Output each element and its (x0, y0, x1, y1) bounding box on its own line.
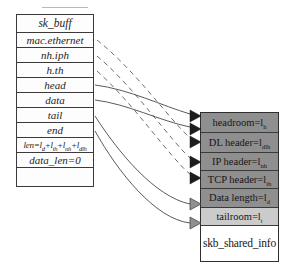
packet-buffer-box: headroom=lh DL header=ldlh IP header=lnh… (200, 112, 279, 262)
arrow-data-to-packet-start (95, 100, 190, 127)
field-data: data (17, 93, 93, 108)
row-dl-header: DL header=ldlh (201, 133, 278, 153)
row-tailroom: tailroom=lt (201, 208, 278, 226)
row-tcp-sub: th (266, 180, 271, 187)
field-head: head (17, 78, 93, 93)
row-headroom-sub: h (263, 123, 266, 130)
row-ip-label: IP header=l (212, 156, 260, 167)
row-data-sub: d (267, 198, 270, 205)
row-data-label: Data length=l (209, 192, 267, 203)
row-dl-sub: dlh (262, 143, 270, 150)
row-headroom: headroom=lh (201, 113, 278, 133)
arrow-hth-to-tcp-header (97, 71, 191, 175)
len-sub-dlh: dlh (79, 145, 86, 152)
field-nh-iph: nh.iph (17, 48, 93, 63)
row-tailroom-label: tailroom=l (216, 211, 260, 222)
field-end: end (17, 123, 93, 138)
top-rule-line (42, 7, 88, 8)
field-data-len: data_len=0 (17, 153, 93, 168)
field-tail: tail (17, 108, 93, 123)
row-ip-header: IP header=lnh (201, 153, 278, 171)
skbuff-diagram: sk_buff mac.ethernet nh.iph h.th head da… (0, 0, 287, 279)
row-tailroom-sub: t (261, 217, 263, 224)
row-dl-label: DL header=l (209, 137, 262, 148)
field-h-th: h.th (17, 63, 93, 78)
struct-table: sk_buff mac.ethernet nh.iph h.th head da… (16, 14, 94, 187)
row-headroom-label: headroom=l (212, 117, 263, 128)
arrow-tail-to-data-end (95, 116, 190, 204)
field-mac-ethernet: mac.ethernet (17, 33, 93, 48)
arrow-mac-to-dl-header (97, 40, 191, 139)
arrow-head-to-buffer-start (95, 85, 190, 114)
len-text: +l (45, 140, 53, 150)
row-data-length: Data length=ld (201, 189, 278, 208)
arrow-nhiph-to-ip-header (97, 56, 191, 159)
row-ip-sub: nh (260, 162, 267, 169)
row-shared-label: skb_shared_info (203, 237, 276, 249)
empty-row (17, 168, 93, 186)
len-text: +l (57, 140, 65, 150)
field-len-formula: len=ld+lth+lnh+ldlh (17, 138, 93, 153)
len-text: len=l (24, 140, 42, 150)
row-tcp-header: TCP header=lth (201, 171, 278, 189)
len-text: +l (71, 140, 79, 150)
struct-title: sk_buff (17, 15, 93, 33)
row-tcp-label: TCP header=l (208, 174, 266, 185)
row-skb-shared-info: skb_shared_info (201, 226, 278, 261)
arrow-end-to-buffer-end (95, 131, 190, 223)
